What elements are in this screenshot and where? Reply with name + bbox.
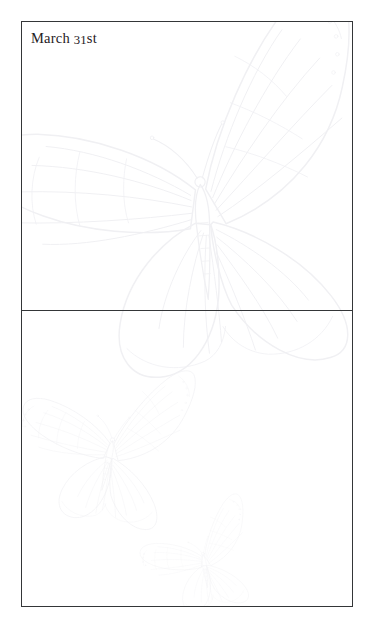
top-panel[interactable]: March 31st: [22, 22, 352, 311]
journal-page: March 31st: [0, 0, 376, 634]
journal-frame: March 31st: [21, 21, 353, 607]
bottom-panel[interactable]: [22, 311, 352, 606]
bottom-panel-writing-area[interactable]: [22, 317, 352, 602]
date-heading-month: March: [31, 30, 70, 46]
date-heading: March 31st: [31, 29, 97, 48]
date-heading-day-number: 31: [74, 33, 87, 49]
top-panel-writing-area[interactable]: [22, 52, 352, 307]
date-heading-day-suffix: st: [87, 30, 97, 46]
